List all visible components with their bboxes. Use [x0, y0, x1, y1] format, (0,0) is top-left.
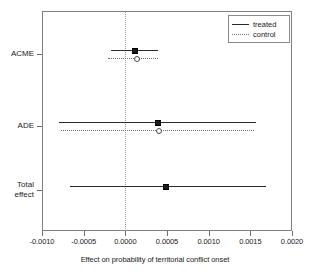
x-tick-label: 0.0010	[187, 237, 231, 246]
point-estimate-control	[134, 56, 140, 62]
x-tick-label: 0.0020	[270, 237, 310, 246]
x-tick-label: -0.0005	[62, 237, 106, 246]
x-tick	[292, 231, 293, 236]
y-category-label: ADE	[18, 121, 34, 131]
x-tick-label: 0.0005	[145, 237, 189, 246]
x-tick-label: 0.0015	[228, 237, 272, 246]
point-estimate-treated	[163, 184, 169, 190]
legend-item-control: control	[232, 29, 286, 39]
x-tick	[84, 231, 85, 236]
y-tick	[37, 54, 42, 55]
y-tick	[37, 190, 42, 191]
x-tick-label: -0.0010	[20, 237, 64, 246]
x-tick-label: 0.0000	[103, 237, 147, 246]
x-tick	[167, 231, 168, 236]
x-axis-title: Effect on probability of territorial con…	[0, 255, 310, 264]
x-tick	[125, 231, 126, 236]
plot-frame	[42, 11, 292, 231]
legend-label-treated: treated	[253, 20, 276, 29]
y-tick	[37, 126, 42, 127]
mediation-effect-plot: -0.0010-0.00050.00000.00050.00100.00150.…	[0, 0, 310, 277]
y-category-label: Totaleffect	[15, 180, 34, 199]
legend: treated control	[228, 15, 290, 43]
legend-line-treated-icon	[232, 24, 249, 25]
x-tick	[250, 231, 251, 236]
legend-item-treated: treated	[232, 19, 286, 29]
y-category-label: ACME	[11, 49, 34, 59]
confidence-interval-control	[108, 58, 158, 59]
legend-line-control-icon	[232, 34, 249, 35]
x-tick	[209, 231, 210, 236]
point-estimate-treated	[132, 48, 138, 54]
point-estimate-treated	[155, 120, 161, 126]
legend-label-control: control	[253, 30, 276, 39]
x-tick	[42, 231, 43, 236]
point-estimate-control	[156, 128, 162, 134]
